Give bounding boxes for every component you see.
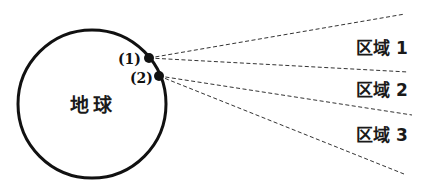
diagram-canvas: (1) (2) 地球 区域 1 区域 2 区域 3 [0,0,422,190]
earth-regions-diagram: (1) (2) 地球 区域 1 区域 2 区域 3 [0,0,422,190]
point-1-dot [144,53,154,63]
region-1-label: 区域 1 [356,38,408,58]
point-2-dot [154,71,164,81]
point-2-label: (2) [130,70,153,86]
region-2-label: 区域 2 [356,80,408,100]
boundary-line-1b [149,58,408,72]
point-1-label: (1) [118,51,141,67]
earth-label: 地球 [70,94,116,116]
region-3-label: 区域 3 [356,125,408,145]
